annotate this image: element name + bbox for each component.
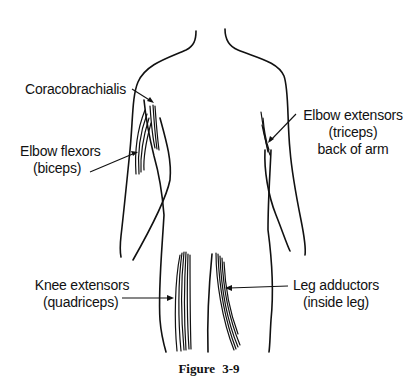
label-leg-adductors: Leg adductors (inside leg) (286, 277, 386, 311)
label-coracobrachialis: Coracobrachialis (25, 81, 126, 98)
label-line: Knee extensors (30, 277, 134, 294)
left-inner-arm-outline (133, 118, 170, 260)
leader-lines (90, 89, 296, 301)
quadriceps-muscle (175, 252, 191, 351)
label-line: Elbow extensors (293, 107, 413, 124)
coracobrachialis-arrow-icon (147, 97, 154, 103)
label-line: Coracobrachialis (25, 81, 126, 98)
label-knee-extensors: Knee extensors (quadriceps) (30, 277, 134, 311)
label-line: back of arm (293, 141, 413, 158)
label-line: (triceps) (293, 124, 413, 141)
right-torso-outline (268, 150, 272, 352)
body-outline (120, 29, 305, 352)
label-line: (inside leg) (286, 294, 386, 311)
knee-extensors-arrow-icon (167, 295, 174, 301)
biceps-muscle (136, 110, 151, 174)
figure-caption: Figure 3-9 (0, 361, 418, 377)
label-elbow-extensors: Elbow extensors (triceps) back of arm (293, 107, 413, 158)
label-line: (quadriceps) (30, 294, 134, 311)
adductors-muscle (216, 253, 240, 350)
body-diagram (0, 0, 418, 377)
triceps-muscle (261, 112, 270, 155)
left-inner-thigh-outline (208, 254, 212, 352)
leg-adductors-leader (229, 286, 288, 288)
label-line: Elbow flexors (20, 143, 136, 160)
label-line: Leg adductors (286, 277, 386, 294)
label-line: (biceps) (20, 160, 136, 177)
label-elbow-flexors: Elbow flexors (biceps) (20, 143, 136, 177)
